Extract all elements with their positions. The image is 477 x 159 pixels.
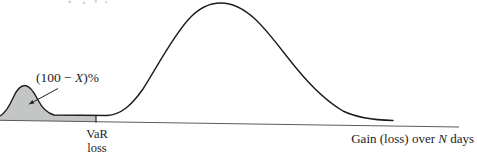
horizontal-axis bbox=[0, 120, 459, 127]
var-label-line1: VaR bbox=[75, 128, 119, 142]
var-loss-label: VaR loss bbox=[75, 128, 119, 155]
var-distribution-figure: (100 − X)% VaR loss Gain (loss) over N d… bbox=[0, 0, 477, 159]
tail-label-post: )% bbox=[83, 70, 99, 85]
gain-axis-label: Gain (loss) over N days bbox=[351, 131, 474, 147]
var-label-line2: loss bbox=[75, 142, 119, 156]
probability-curve bbox=[0, 3, 393, 121]
tail-probability-label: (100 − X)% bbox=[36, 70, 99, 86]
gain-label-pre: Gain (loss) over bbox=[351, 131, 438, 146]
tail-shaded-region bbox=[0, 86, 96, 122]
gain-label-post: days bbox=[447, 131, 474, 146]
tail-label-pre: (100 − bbox=[36, 70, 75, 85]
gain-label-variable: N bbox=[438, 131, 447, 146]
annotation-arrow-line bbox=[33, 89, 58, 102]
